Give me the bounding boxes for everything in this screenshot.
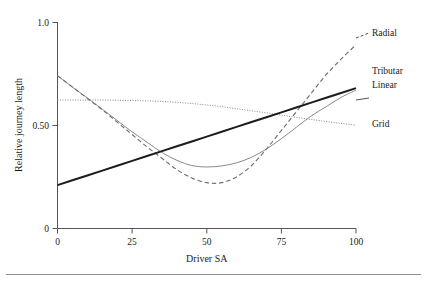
leader-grid — [356, 98, 369, 100]
y-tick-label-1: 1.0 — [37, 18, 49, 28]
series-line-grid — [58, 100, 357, 125]
line-chart: 1.0 0.50 0 0 25 50 75 100 Driver SA Rela… — [0, 0, 427, 282]
y-tick-label-0: 0 — [44, 224, 49, 234]
series-line-radial — [58, 45, 357, 184]
footer-divider — [6, 274, 421, 275]
x-tick-label-100: 100 — [349, 237, 364, 247]
x-tick-label-25: 25 — [127, 237, 137, 247]
x-tick-label-0: 0 — [55, 237, 60, 247]
legend-label-radial: Radial — [372, 28, 397, 38]
series-line-linear — [58, 88, 357, 185]
x-tick-label-75: 75 — [277, 237, 287, 247]
x-tick-label-50: 50 — [202, 237, 212, 247]
legend-label-grid: Grid — [372, 119, 390, 129]
series-line-tributary — [58, 76, 357, 167]
y-axis-title: Relative journey length — [13, 78, 24, 172]
legend-label-tributary: Tributar — [372, 66, 404, 76]
x-axis-title: Driver SA — [186, 253, 228, 264]
legend-label-linear: Linear — [372, 80, 398, 90]
leader-radial — [356, 33, 369, 38]
y-tick-label-050: 0.50 — [32, 121, 49, 131]
chart-figure: 1.0 0.50 0 0 25 50 75 100 Driver SA Rela… — [0, 0, 427, 282]
